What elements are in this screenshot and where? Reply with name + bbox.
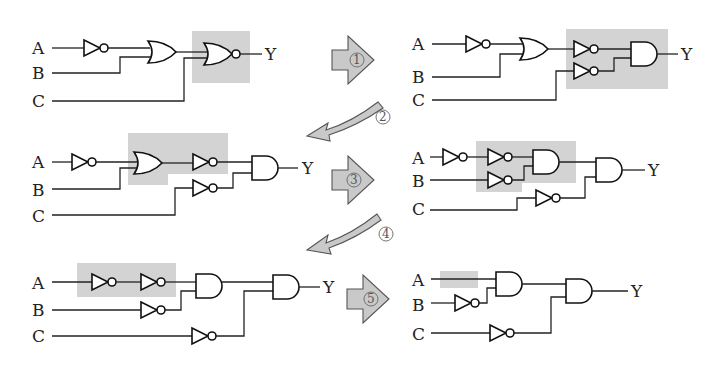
input-a-label: A: [31, 38, 45, 58]
output-y-label: Y: [322, 277, 335, 297]
not-gate-icon: [443, 149, 467, 165]
output-y-label: Y: [301, 158, 314, 178]
and-gate-icon: [596, 158, 622, 182]
or-gate-icon: [520, 38, 548, 60]
output-y-label: Y: [680, 44, 693, 64]
and-gate-icon: [496, 272, 522, 296]
not-gate-icon: [490, 325, 514, 341]
and-gate-icon: [273, 275, 299, 299]
step-2-number: 2: [379, 110, 387, 124]
input-c-label: C: [32, 91, 45, 111]
curved-arrow-icon: [307, 214, 381, 254]
not-gate-icon: [84, 40, 108, 56]
input-c-label: C: [32, 326, 45, 346]
not-gate-icon: [72, 154, 96, 170]
step-4-number: 4: [382, 227, 390, 241]
input-a-label: A: [411, 270, 425, 290]
circuit-3: A B C Y: [31, 133, 314, 226]
and-gate-icon: [196, 274, 222, 298]
input-a-label: A: [31, 152, 45, 172]
output-y-label: Y: [264, 44, 277, 64]
circuit-2: A B C Y: [411, 29, 693, 110]
step-5-number: 5: [367, 292, 375, 306]
output-y-label: Y: [647, 160, 660, 180]
input-b-label: B: [32, 180, 45, 200]
input-b-label: B: [412, 171, 425, 191]
and-gate-icon: [566, 279, 592, 303]
input-b-label: B: [32, 300, 45, 320]
and-gate-icon: [252, 156, 278, 180]
step-1-arrow: 1: [332, 36, 374, 84]
input-b-label: B: [32, 63, 45, 83]
step-4-arrow: 4: [307, 214, 393, 254]
and-gate-icon: [631, 42, 657, 66]
circuit-5: A B C Y: [31, 263, 335, 346]
step-2-arrow: 2: [307, 102, 390, 141]
or-gate-icon: [148, 41, 176, 63]
input-c-label: C: [412, 90, 425, 110]
step-1-number: 1: [353, 53, 361, 67]
input-a-label: A: [411, 148, 425, 168]
circuit-1: A B C Y: [31, 31, 277, 111]
not-gate-icon: [193, 180, 217, 196]
not-gate-icon: [192, 328, 216, 344]
input-a-label: A: [411, 34, 425, 54]
step-5-arrow: 5: [347, 275, 389, 323]
not-gate-icon: [455, 295, 479, 311]
logic-diagram: A B C Y 1 A B C Y: [0, 0, 727, 377]
curved-arrow-icon: [307, 102, 383, 141]
input-c-label: C: [412, 199, 425, 219]
input-c-label: C: [32, 206, 45, 226]
input-c-label: C: [412, 324, 425, 344]
step-3-arrow: 3: [332, 156, 374, 204]
step-3-number: 3: [350, 173, 358, 187]
input-b-label: B: [412, 295, 425, 315]
not-gate-icon: [466, 36, 490, 52]
input-a-label: A: [31, 273, 45, 293]
not-gate-icon: [536, 190, 560, 206]
and-gate-icon: [533, 150, 559, 174]
output-y-label: Y: [630, 281, 643, 301]
not-gate-icon: [141, 302, 165, 318]
input-b-label: B: [412, 67, 425, 87]
circuit-6: A B C Y: [411, 270, 643, 344]
circuit-4: A B C Y: [411, 141, 660, 219]
